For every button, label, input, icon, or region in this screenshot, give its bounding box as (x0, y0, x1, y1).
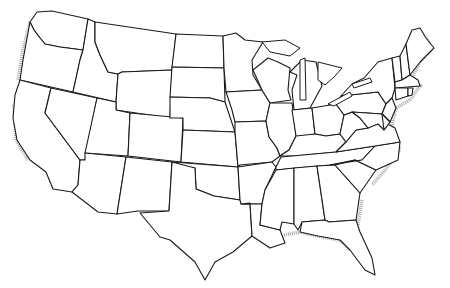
state-mt (95, 22, 176, 74)
state-wy (116, 70, 172, 118)
state-nm (117, 157, 172, 214)
state-me (406, 28, 434, 75)
us-outline-map (0, 0, 450, 288)
state-ct (395, 88, 408, 100)
state-mn (223, 33, 263, 92)
state-boundaries (13, 11, 434, 280)
state-fl (300, 220, 375, 275)
lake-superior (262, 40, 300, 56)
lake-huron (318, 62, 342, 85)
state-nd (172, 34, 224, 68)
state-ks (181, 130, 238, 167)
state-co (128, 113, 183, 162)
lake-michigan (300, 58, 306, 100)
state-ia (226, 90, 270, 122)
state-ri (408, 88, 413, 96)
